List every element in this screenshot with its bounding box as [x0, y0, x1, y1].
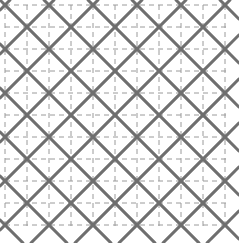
pattern-figure [0, 0, 239, 243]
pattern-canvas [0, 0, 239, 243]
